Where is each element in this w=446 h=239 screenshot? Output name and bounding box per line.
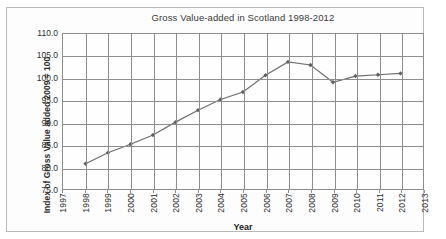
y-axis-tick-label: 110.0 [24, 28, 58, 38]
x-axis-title: Year [62, 222, 424, 232]
gridline-vertical [131, 34, 132, 189]
gridline-horizontal [63, 124, 423, 125]
gridline-vertical [176, 34, 177, 189]
gridline-horizontal [63, 169, 423, 170]
gridline-horizontal [63, 146, 423, 147]
gridline-horizontal [63, 79, 423, 80]
y-axis-tick-label: 85.0 [24, 140, 58, 150]
x-axis-tick-label: 2012 [397, 193, 407, 213]
gridline-vertical [108, 34, 109, 189]
x-axis-tick-label: 2009 [330, 193, 340, 213]
series-line [86, 62, 401, 164]
gridline-vertical [199, 34, 200, 189]
gridline-vertical [335, 34, 336, 189]
x-axis-tick-label: 2005 [239, 193, 249, 213]
x-axis-tick-labels: 1997199819992000200120022003200420052006… [62, 193, 424, 223]
x-axis-tick-label: 2002 [171, 193, 181, 213]
gridline-horizontal [63, 101, 423, 102]
gridline-vertical [244, 34, 245, 189]
gridline-vertical [267, 34, 268, 189]
x-axis-tick-label: 2011 [375, 193, 385, 212]
chart-page: Gross Value-added in Scotland 1998-2012 … [0, 0, 446, 239]
x-axis-tick-label: 2003 [194, 193, 204, 213]
gridline-vertical [289, 34, 290, 189]
y-axis-tick-label: 95.0 [24, 95, 58, 105]
x-axis-tick-label: 2004 [216, 193, 226, 213]
y-axis-tick-label: 100.0 [24, 73, 58, 83]
x-axis-tick-label: 2007 [284, 193, 294, 213]
y-axis-tick-label: 80.0 [24, 163, 58, 173]
gridline-vertical [221, 34, 222, 189]
x-axis-tick-label: 2010 [352, 193, 362, 213]
plot-area [62, 33, 424, 190]
x-axis-tick-label: 2006 [262, 193, 272, 213]
y-axis-tick-label: 75.0 [24, 185, 58, 195]
gridline-horizontal [63, 56, 423, 57]
gridline-vertical [402, 34, 403, 189]
gridline-vertical [380, 34, 381, 189]
gridline-vertical [312, 34, 313, 189]
x-axis-tick-label: 1997 [58, 193, 68, 213]
gridline-vertical [357, 34, 358, 189]
y-axis-tick-label: 90.0 [24, 118, 58, 128]
x-axis-tick-label: 2001 [149, 193, 159, 213]
chart-title: Gross Value-added in Scotland 1998-2012 [62, 12, 424, 23]
gridline-vertical [154, 34, 155, 189]
x-axis-tick-label: 1999 [103, 193, 113, 213]
x-axis-tick-label: 2008 [307, 193, 317, 213]
x-axis-tick-label: 2000 [126, 193, 136, 213]
gridline-vertical [86, 34, 87, 189]
x-axis-tick-label: 2013 [420, 193, 430, 213]
y-axis-tick-label: 105.0 [24, 50, 58, 60]
x-axis-tick-label: 1998 [81, 193, 91, 213]
y-axis-tick-labels: 75.080.085.090.095.0100.0105.0110.0 [22, 33, 58, 190]
